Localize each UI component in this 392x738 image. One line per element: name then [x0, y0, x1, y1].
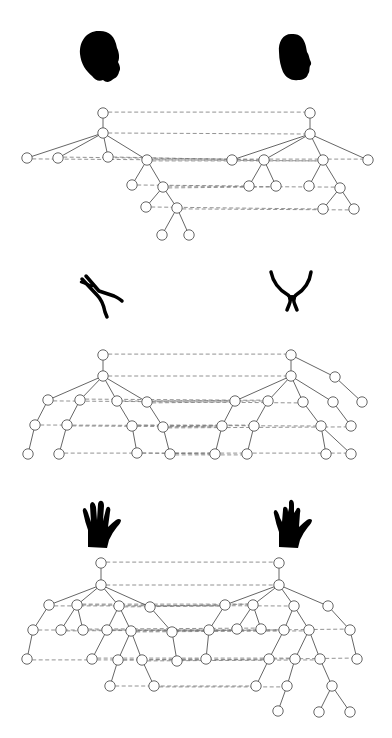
tree-node: [54, 449, 64, 459]
panel-heads: [80, 31, 311, 82]
tree-node: [259, 155, 269, 165]
hand-fingers-crossed-icon: [274, 500, 312, 548]
tree-node: [210, 449, 220, 459]
tree-node: [256, 624, 266, 634]
tree-edge: [103, 376, 147, 402]
tree-node: [96, 558, 106, 568]
correspondence-line: [168, 187, 271, 188]
tree-node: [298, 397, 308, 407]
tree-node: [44, 600, 54, 610]
panel-pliers: [81, 272, 311, 317]
tree-node: [289, 601, 299, 611]
tree-node: [242, 449, 252, 459]
tree-node: [142, 155, 152, 165]
tree-node: [286, 371, 296, 381]
tree-node: [264, 654, 274, 664]
tree-node: [172, 656, 182, 666]
tree-node: [286, 350, 296, 360]
tree-node: [335, 183, 345, 193]
tree-node: [127, 421, 137, 431]
tree-node: [102, 625, 112, 635]
tree-node: [217, 421, 227, 431]
tree-node: [53, 153, 63, 163]
tree-node: [201, 654, 211, 664]
tree-node: [172, 203, 182, 213]
tree-node: [323, 601, 333, 611]
tree-node: [75, 395, 85, 405]
tree-node: [98, 371, 108, 381]
head-profile-icon: [279, 34, 311, 80]
tree-node: [249, 421, 259, 431]
tree-edge: [291, 355, 335, 377]
tree-node: [251, 681, 261, 691]
tree-node: [112, 396, 122, 406]
tree-node: [28, 625, 38, 635]
tree-node: [271, 181, 281, 191]
tree-node: [114, 601, 124, 611]
tree-correspondence-figure: [0, 0, 392, 738]
tree-node: [316, 421, 326, 431]
tree-node: [318, 155, 328, 165]
tree-node: [105, 681, 115, 691]
tree-node: [96, 580, 106, 590]
tree-node: [22, 153, 32, 163]
tree-node: [321, 449, 331, 459]
tree-node: [158, 422, 168, 432]
tree-node: [142, 397, 152, 407]
tree-node: [274, 580, 284, 590]
tree-edges: [27, 113, 368, 712]
tree-node: [23, 449, 33, 459]
tree-node: [30, 420, 40, 430]
tree-node: [328, 397, 338, 407]
tree-node: [327, 681, 337, 691]
tree-node: [305, 129, 315, 139]
tree-edge: [235, 376, 291, 401]
tree-node: [273, 706, 283, 716]
tree-node: [56, 625, 66, 635]
tree-node: [158, 182, 168, 192]
tree-node: [167, 627, 177, 637]
tree-node: [290, 654, 300, 664]
tree-node: [145, 602, 155, 612]
tree-node: [184, 230, 194, 240]
tree-node: [126, 626, 136, 636]
tree-node: [165, 449, 175, 459]
hand-open-icon: [83, 501, 121, 548]
tree-node: [345, 707, 355, 717]
tree-node: [230, 396, 240, 406]
tree-node: [279, 625, 289, 635]
tree-node: [232, 624, 242, 634]
tree-node: [318, 204, 328, 214]
panel-hands: [83, 500, 312, 548]
tree-node: [157, 230, 167, 240]
tree-node: [282, 681, 292, 691]
tree-node: [357, 397, 367, 407]
tree-node: [22, 654, 32, 664]
tree-node: [220, 600, 230, 610]
tree-node: [204, 625, 214, 635]
tree-edge: [310, 134, 368, 160]
tree-node: [87, 654, 97, 664]
tree-node: [127, 180, 137, 190]
tree-node: [62, 420, 72, 430]
tree-node: [352, 654, 362, 664]
tree-node: [274, 558, 284, 568]
tree-nodes: [22, 108, 373, 717]
tree-node: [103, 152, 113, 162]
tree-node: [43, 395, 53, 405]
tree-node: [349, 204, 359, 214]
tree-node: [132, 448, 142, 458]
tree-node: [305, 108, 315, 118]
tree-node: [330, 372, 340, 382]
tree-node: [78, 625, 88, 635]
tree-node: [346, 449, 356, 459]
tree-edge: [48, 376, 103, 400]
correspondence-line: [108, 133, 305, 134]
tree-node: [304, 181, 314, 191]
tree-node: [244, 181, 254, 191]
tree-node: [98, 128, 108, 138]
tree-node: [98, 350, 108, 360]
tree-node: [263, 396, 273, 406]
pliers-closed-icon: [81, 276, 122, 317]
head-profile-icon: [80, 31, 120, 82]
